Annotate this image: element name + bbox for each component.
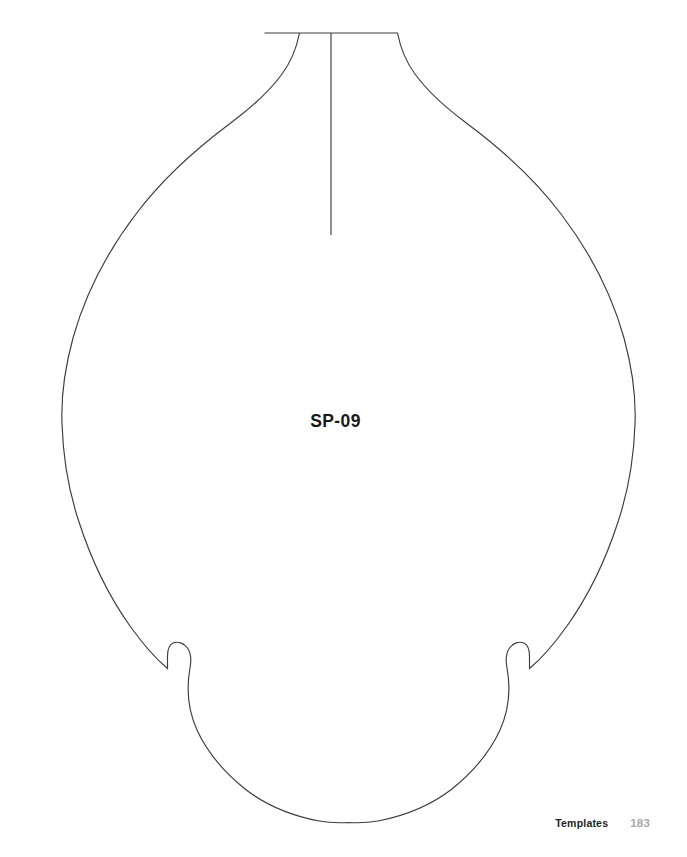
- template-label: SP-09: [0, 411, 671, 432]
- footer-section-label: Templates: [555, 817, 608, 829]
- footer-page-number: 183: [630, 817, 650, 829]
- page-footer: Templates 183: [0, 812, 687, 834]
- page-canvas: SP-09 Templates 183: [0, 0, 687, 857]
